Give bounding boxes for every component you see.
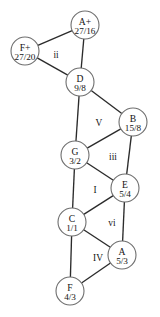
lattice-node-A[interactable]: A5/3 bbox=[108, 241, 136, 269]
lattice-node-Aplus[interactable]: A+27/16 bbox=[71, 11, 99, 39]
node-ratio-G: 3/2 bbox=[69, 156, 81, 166]
lattice-node-F[interactable]: F4/3 bbox=[56, 277, 84, 305]
region-V-label: V bbox=[96, 118, 103, 128]
region-I-label: I bbox=[93, 185, 96, 195]
node-ratio-C: 1/1 bbox=[66, 223, 78, 233]
lattice-node-G[interactable]: G3/2 bbox=[61, 141, 89, 169]
region-iii-label: iii bbox=[109, 152, 117, 162]
region-vi-label: vi bbox=[108, 218, 116, 228]
node-ratio-B: 15/8 bbox=[125, 123, 142, 133]
lattice-edge-F-A bbox=[82, 263, 111, 283]
lattice-diagram-canvas: A+27/16F+27/20D9/8B15/8G3/2E5/4C1/1A5/3F… bbox=[0, 0, 160, 317]
lattice-edge-G-E bbox=[87, 163, 114, 181]
lattice-edge-D-B bbox=[91, 90, 122, 113]
lattice-edge-C-F bbox=[70, 236, 71, 277]
lattice-node-C[interactable]: C1/1 bbox=[58, 208, 86, 236]
lattice-node-Fplus[interactable]: F+27/20 bbox=[11, 37, 39, 65]
node-ratio-A: 5/3 bbox=[116, 256, 128, 266]
nodes-group: A+27/16F+27/20D9/8B15/8G3/2E5/4C1/1A5/3F… bbox=[11, 11, 147, 305]
lattice-svg: A+27/16F+27/20D9/8B15/8G3/2E5/4C1/1A5/3F… bbox=[0, 0, 160, 317]
lattice-edge-G-C bbox=[73, 169, 75, 208]
node-ratio-Aplus: 27/16 bbox=[75, 26, 96, 36]
node-ratio-E: 5/4 bbox=[119, 189, 131, 199]
lattice-edge-E-A bbox=[123, 202, 125, 241]
lattice-node-B[interactable]: B15/8 bbox=[119, 108, 147, 136]
lattice-edge-Fplus-Aplus bbox=[38, 31, 72, 46]
node-ratio-D: 9/8 bbox=[74, 83, 86, 93]
node-ratio-F: 4/3 bbox=[64, 292, 76, 302]
lattice-edge-C-A bbox=[84, 230, 111, 248]
region-IV-label: IV bbox=[93, 253, 103, 263]
lattice-edge-Aplus-D bbox=[81, 39, 84, 68]
lattice-edge-B-E bbox=[127, 136, 132, 174]
lattice-node-E[interactable]: E5/4 bbox=[111, 174, 139, 202]
lattice-edge-Fplus-D bbox=[37, 58, 68, 75]
lattice-edge-G-B bbox=[87, 129, 121, 148]
lattice-edge-C-E bbox=[84, 196, 113, 215]
region-ii-label: ii bbox=[53, 50, 59, 60]
lattice-node-D[interactable]: D9/8 bbox=[66, 68, 94, 96]
lattice-edge-D-G bbox=[76, 96, 79, 141]
node-ratio-Fplus: 27/20 bbox=[15, 52, 36, 62]
